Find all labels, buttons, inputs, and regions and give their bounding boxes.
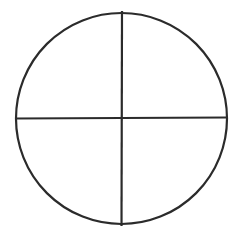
horizontal-divider-line xyxy=(16,118,227,119)
quadrant-circle-diagram xyxy=(0,0,238,243)
diagram-canvas xyxy=(0,0,238,243)
